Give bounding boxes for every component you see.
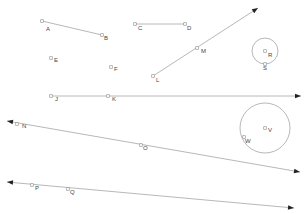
point-marker-icon[interactable]: [16, 123, 19, 126]
ray-LM-stroke[interactable]: [153, 8, 258, 76]
point-marker-icon[interactable]: [264, 50, 267, 53]
point-label: W: [245, 138, 251, 144]
point-marker-icon[interactable]: [184, 23, 187, 26]
point-label: D: [187, 25, 192, 31]
point-label: N: [22, 123, 26, 129]
segments-layer: [42, 21, 185, 35]
point-B[interactable]: B: [101, 34, 108, 41]
geometry-canvas[interactable]: ABCDEFLMRSJKNOVWPQ: [0, 0, 307, 214]
point-label: Q: [70, 189, 75, 195]
point-marker-icon[interactable]: [41, 20, 44, 23]
point-label: R: [268, 52, 273, 58]
points-layer: ABCDEFLMRSJKNOVWPQ: [16, 20, 273, 195]
point-label: C: [138, 25, 143, 31]
point-W[interactable]: W: [243, 136, 251, 144]
ray-LM[interactable]: [153, 8, 258, 76]
point-marker-icon[interactable]: [140, 144, 143, 147]
point-M[interactable]: M: [196, 47, 206, 54]
point-E[interactable]: E: [50, 57, 58, 63]
arrowhead-icon: [294, 169, 300, 174]
point-label: F: [114, 66, 118, 72]
line-PQ-stroke[interactable]: [7, 182, 294, 208]
point-label: E: [54, 57, 58, 63]
point-label: A: [46, 26, 50, 32]
arrowhead-icon: [7, 120, 13, 125]
point-marker-icon[interactable]: [196, 47, 199, 50]
point-marker-icon[interactable]: [101, 34, 104, 37]
point-O[interactable]: O: [140, 144, 148, 151]
lines-layer: [7, 120, 300, 210]
arrowhead-icon: [252, 8, 258, 13]
point-marker-icon[interactable]: [50, 95, 53, 98]
point-marker-icon[interactable]: [110, 66, 113, 69]
point-P[interactable]: P: [31, 184, 39, 191]
arrowhead-icon: [295, 94, 301, 99]
point-label: J: [55, 96, 58, 102]
ray-JK[interactable]: [51, 94, 301, 99]
line-NO[interactable]: [7, 120, 300, 173]
point-N[interactable]: N: [16, 123, 27, 129]
point-D[interactable]: D: [184, 23, 192, 31]
point-marker-icon[interactable]: [50, 57, 53, 60]
point-label: L: [156, 77, 160, 83]
line-PQ[interactable]: [7, 180, 294, 209]
point-V[interactable]: V: [264, 127, 272, 133]
segment-AB[interactable]: [42, 21, 102, 35]
point-label: B: [104, 35, 108, 41]
point-label: K: [112, 96, 116, 102]
point-label: O: [143, 145, 148, 151]
point-K[interactable]: K: [107, 95, 116, 102]
point-label: M: [201, 48, 206, 54]
point-marker-icon[interactable]: [107, 95, 110, 98]
point-label: P: [35, 185, 39, 191]
rays-layer: [51, 8, 301, 98]
point-marker-icon[interactable]: [264, 127, 267, 130]
point-marker-icon[interactable]: [134, 23, 137, 26]
point-S[interactable]: S: [263, 63, 267, 71]
point-R[interactable]: R: [264, 50, 273, 58]
point-label: V: [268, 127, 272, 133]
point-marker-icon[interactable]: [31, 184, 34, 187]
point-Q[interactable]: Q: [67, 188, 75, 195]
point-L[interactable]: L: [152, 75, 160, 83]
point-F[interactable]: F: [110, 66, 118, 72]
line-NO-stroke[interactable]: [7, 121, 300, 172]
point-label: S: [263, 65, 267, 71]
point-marker-icon[interactable]: [67, 188, 70, 191]
point-marker-icon[interactable]: [152, 75, 155, 78]
